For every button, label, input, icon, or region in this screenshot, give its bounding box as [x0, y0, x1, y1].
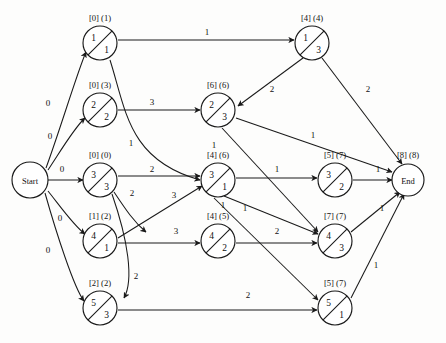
activity-node-n5-activity-id: 5: [91, 298, 96, 308]
edge-n3-n4: [114, 192, 146, 232]
start-node: Start: [12, 162, 48, 198]
w-m2-end: 1: [311, 130, 316, 140]
w-start-n3: 0: [60, 164, 65, 174]
activity-node-r5-activity-id: 5: [326, 298, 331, 308]
w-n3-n5: 2: [134, 271, 139, 281]
w-n2-m2: 3: [150, 97, 155, 107]
w-start-n1: 0: [46, 98, 51, 108]
activity-node-n3-duration: 3: [104, 182, 109, 192]
w-m3-r4: 1: [243, 203, 248, 213]
w-n5-r5: 2: [246, 290, 251, 300]
edge-m2-end: [236, 118, 392, 172]
activity-node-r3-duration: 2: [339, 182, 344, 192]
edge-n1-m3: [110, 60, 200, 180]
activity-node-n1-activity-id: 1: [91, 33, 96, 43]
w-m2-r4: 1: [212, 140, 217, 150]
activity-node-r1-duration: 3: [316, 45, 321, 55]
activity-node-m4: 42[4] (5): [201, 211, 235, 258]
activity-node-n4-activity-id: 4: [91, 231, 96, 241]
activity-node-r4-duration: 3: [339, 243, 344, 253]
w-r1-m2: 2: [270, 84, 275, 94]
activity-node-m2: 23[6] (6): [201, 80, 235, 127]
w-n1-r1: 1: [205, 27, 210, 37]
w-r4-end: 1: [380, 203, 385, 213]
edge-start-n4: [48, 191, 85, 234]
end-node-label: End: [401, 176, 415, 186]
activity-node-m3-bracket: [4] (6): [207, 150, 229, 160]
activity-node-n4: 41[1] (2): [83, 211, 117, 258]
edge-start-n2: [48, 118, 85, 170]
activity-node-m3: 31[4] (6): [201, 150, 235, 197]
activity-node-m2-duration: 3: [222, 112, 227, 122]
activity-node-n3-bracket: [0] (0): [89, 150, 111, 160]
activity-node-n3-activity-id: 3: [91, 170, 96, 180]
w-m3-r5: 1: [221, 200, 226, 210]
activity-node-r5-bracket: [5] (7): [324, 278, 346, 288]
activity-node-r5: 51[5] (7): [318, 278, 352, 325]
activity-node-m3-duration: 1: [222, 182, 227, 192]
activity-node-n5-bracket: [2] (2): [89, 278, 111, 288]
diagram-canvas: 0000013122332222111112111 StartEnd[8] (8…: [0, 0, 446, 343]
activity-network-diagram: 0000013122332222111112111 StartEnd[8] (8…: [0, 0, 446, 343]
activity-node-n4-bracket: [1] (2): [89, 211, 111, 221]
w-m3-r3: 1: [275, 164, 280, 174]
activity-node-n4-duration: 1: [104, 243, 109, 253]
w-start-n5: 0: [46, 245, 51, 255]
activity-node-m2-activity-id: 2: [209, 100, 214, 110]
activity-node-m4-activity-id: 4: [209, 231, 214, 241]
activity-node-r1: 13[4] (4): [295, 13, 329, 60]
activity-node-n1-duration: 1: [104, 45, 109, 55]
edge-start-n1: [46, 52, 86, 168]
end-node: End: [392, 164, 424, 196]
edge-r4-end: [351, 192, 400, 232]
activity-node-n5-duration: 3: [104, 310, 109, 320]
activity-node-n2-bracket: [0] (3): [89, 80, 111, 90]
activity-node-m2-bracket: [6] (6): [207, 80, 229, 90]
w-m4-r4: 2: [275, 226, 280, 236]
nodes-layer: StartEnd[8] (8)11[0] (1)22[0] (3)33[0] (…: [12, 13, 424, 325]
activity-node-m4-duration: 2: [222, 243, 227, 253]
w-start-n4: 0: [58, 213, 63, 223]
activity-node-m3-activity-id: 3: [209, 170, 214, 180]
edge-r1-end: [322, 58, 402, 164]
w-r3-end: 1: [376, 164, 381, 174]
activity-node-r1-bracket: [4] (4): [301, 13, 323, 23]
edge-m2-r4: [222, 128, 318, 232]
w-r1-end: 2: [366, 84, 371, 94]
activity-node-m4-bracket: [4] (5): [207, 211, 229, 221]
edge-m3-r4: [224, 196, 318, 234]
activity-node-n3: 33[0] (0): [83, 150, 117, 197]
activity-node-n5: 53[2] (2): [83, 278, 117, 325]
activity-node-r3-bracket: [5] (7): [324, 150, 346, 160]
activity-node-r3: 32[5] (7): [318, 150, 352, 197]
w-n4-m3: 3: [172, 190, 177, 200]
activity-node-n2-duration: 2: [104, 112, 109, 122]
w-n1-m3: 1: [129, 138, 134, 148]
activity-node-n1: 11[0] (1): [83, 13, 117, 60]
activity-node-n2-activity-id: 2: [91, 100, 96, 110]
activity-node-n1-bracket: [0] (1): [89, 13, 111, 23]
edge-r5-end: [351, 194, 404, 298]
activity-node-n2: 22[0] (3): [83, 80, 117, 127]
w-n4-m4: 3: [174, 226, 179, 236]
end-node-bracket: [8] (8): [397, 150, 419, 160]
w-n3-n4: 2: [130, 188, 135, 198]
start-node-label: Start: [22, 176, 39, 186]
edge-start-n5: [45, 193, 84, 301]
activity-node-r4: 43[7] (7): [318, 211, 352, 258]
activity-node-r5-duration: 1: [339, 310, 344, 320]
w-n3-r3a: 2: [150, 164, 155, 174]
activity-node-r4-activity-id: 4: [326, 231, 331, 241]
activity-node-r1-activity-id: 1: [303, 33, 308, 43]
activity-node-r4-bracket: [7] (7): [324, 211, 346, 221]
w-r5-end: 1: [374, 260, 379, 270]
activity-node-r3-activity-id: 3: [326, 170, 331, 180]
edge-r1-m2: [238, 58, 303, 106]
w-start-n2: 0: [48, 131, 53, 141]
